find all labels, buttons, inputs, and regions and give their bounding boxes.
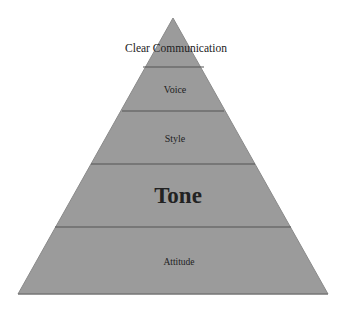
pyramid-shape (18, 18, 328, 294)
level-label-style: Style (165, 133, 186, 144)
level-label-attitude: Attitude (163, 257, 194, 267)
level-label-voice: Voice (164, 84, 187, 95)
level-label-clear-communication: Clear Communication (125, 42, 227, 54)
level-label-tone: Tone (154, 183, 202, 208)
pyramid-diagram: Clear Communication Voice Style Tone Att… (0, 0, 345, 311)
